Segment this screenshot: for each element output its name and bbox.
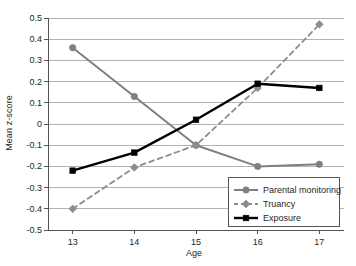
data-point-circle xyxy=(254,163,260,169)
legend-item-label: Parental monitoring xyxy=(259,185,341,195)
data-point-square xyxy=(317,85,323,91)
legend-item[interactable]: Exposure xyxy=(233,211,301,225)
data-point-circle xyxy=(131,93,137,99)
legend-item-label: Truancy xyxy=(259,199,295,209)
chart-container: Mean z-score 0.50.40.30.20.10-0.1-0.2-0.… xyxy=(0,0,356,266)
legend-item[interactable]: Truancy xyxy=(233,197,295,211)
data-point-square xyxy=(243,215,249,221)
data-point-square xyxy=(132,150,138,156)
data-point-circle xyxy=(316,161,322,167)
series-parental-monitoring xyxy=(69,44,322,169)
legend: Parental monitoringTruancyExposure xyxy=(228,177,340,227)
data-point-circle xyxy=(69,44,75,50)
data-point-diamond xyxy=(242,200,250,208)
legend-key-circle-icon xyxy=(233,184,259,196)
legend-key-diamond-icon xyxy=(233,198,259,210)
data-point-square xyxy=(193,117,199,123)
series-line xyxy=(73,84,320,171)
data-point-diamond xyxy=(130,164,138,172)
x-axis-label: Age xyxy=(0,248,356,258)
data-point-square xyxy=(255,81,261,87)
series-exposure xyxy=(70,81,322,174)
legend-key-square-icon xyxy=(233,212,259,224)
x-axis-label-text: Age xyxy=(186,248,202,258)
data-point-circle xyxy=(243,187,249,193)
data-point-square xyxy=(70,168,76,174)
legend-item-label: Exposure xyxy=(259,213,301,223)
legend-item[interactable]: Parental monitoring xyxy=(233,183,341,197)
